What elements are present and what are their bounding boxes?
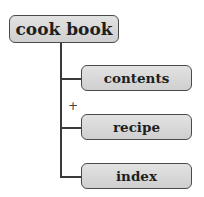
branch-connector-contents [60,78,82,80]
child-node-recipe[interactable]: recipe [81,114,192,140]
expand-plus-icon[interactable]: + [68,100,78,112]
branch-connector-recipe [60,127,82,129]
child-node-label: recipe [113,119,160,135]
trunk-connector [60,42,62,177]
child-node-index[interactable]: index [81,163,192,189]
child-node-label: index [116,168,157,184]
child-node-contents[interactable]: contents [81,65,192,91]
root-node-label: cook book [15,19,112,39]
root-node[interactable]: cook book [9,15,119,43]
branch-connector-index [60,176,82,178]
child-node-label: contents [104,70,170,86]
